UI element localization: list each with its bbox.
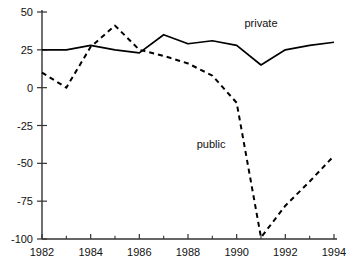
series-label-private: private xyxy=(244,17,277,29)
x-axis: 1982198419861988199019921994 xyxy=(30,234,346,258)
y-axis-tick-label: -100 xyxy=(11,233,33,245)
series-label-public: public xyxy=(197,138,226,150)
y-axis-tick-label: 0 xyxy=(27,82,33,94)
x-axis-tick-label: 1990 xyxy=(224,246,248,258)
x-axis-tick-label: 1988 xyxy=(176,246,200,258)
y-axis-tick-label: 25 xyxy=(21,44,33,56)
x-axis-tick-label: 1984 xyxy=(78,246,102,258)
series-annotations: privatepublic xyxy=(197,17,278,150)
data-series-group xyxy=(42,26,334,238)
x-axis-tick-label: 1982 xyxy=(30,246,54,258)
x-axis-tick-label: 1994 xyxy=(322,246,346,258)
y-axis-tick-label: -50 xyxy=(17,157,33,169)
y-axis: 50250-25-50-75-100 xyxy=(11,6,47,245)
y-axis-tick-label: 50 xyxy=(21,6,33,18)
chart-container: 50250-25-50-75-100 198219841986198819901… xyxy=(0,0,355,269)
line-chart: 50250-25-50-75-100 198219841986198819901… xyxy=(0,0,355,269)
x-axis-tick-label: 1992 xyxy=(273,246,297,258)
series-line-private xyxy=(42,35,334,65)
y-axis-tick-label: -25 xyxy=(17,120,33,132)
x-axis-tick-label: 1986 xyxy=(127,246,151,258)
y-axis-tick-label: -75 xyxy=(17,195,33,207)
series-line-public xyxy=(42,26,334,238)
